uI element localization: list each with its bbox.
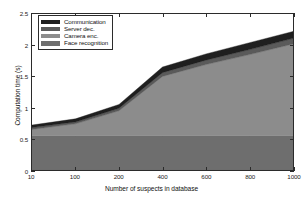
y-tick-label: 1.5 xyxy=(20,73,28,80)
legend-swatch-icon xyxy=(41,27,60,31)
legend-item[interactable]: Face recognition xyxy=(41,40,108,47)
y-tick-mark xyxy=(31,108,35,109)
x-tick-label: 1000 xyxy=(287,173,300,180)
legend-swatch-icon xyxy=(41,41,60,45)
y-axis-title: Computation time (s) xyxy=(14,41,21,151)
x-tick-label: 800 xyxy=(245,173,255,180)
x-tick-label: 400 xyxy=(157,173,167,180)
y-tick-label: 1 xyxy=(25,104,28,111)
x-tick-label: 200 xyxy=(114,173,124,180)
x-tick-mark xyxy=(294,167,295,171)
x-tick-mark xyxy=(119,13,120,17)
x-tick-mark xyxy=(31,13,32,17)
x-tick-mark xyxy=(294,13,295,17)
x-tick-mark xyxy=(206,13,207,17)
legend-label: Face recognition xyxy=(64,40,108,47)
y-tick-label: 2 xyxy=(25,41,28,48)
x-tick-mark xyxy=(163,13,164,17)
y-tick-mark xyxy=(31,139,35,140)
legend-swatch-icon xyxy=(41,34,60,38)
chart-legend: CommunicationServer dec.Camera enc.Face … xyxy=(38,15,113,50)
legend-swatch-icon xyxy=(41,20,60,24)
x-tick-mark xyxy=(250,167,251,171)
x-tick-mark xyxy=(75,167,76,171)
x-tick-label: 100 xyxy=(70,173,80,180)
y-tick-mark xyxy=(31,171,35,172)
y-tick-label: 0.5 xyxy=(20,136,28,143)
x-tick-mark xyxy=(206,167,207,171)
y-tick-mark xyxy=(290,139,294,140)
x-tick-label: 10 xyxy=(28,173,35,180)
x-tick-mark xyxy=(119,167,120,171)
x-tick-mark xyxy=(31,167,32,171)
y-tick-mark xyxy=(31,45,35,46)
y-tick-label: 2.5 xyxy=(20,10,28,17)
x-tick-mark xyxy=(250,13,251,17)
y-tick-mark xyxy=(31,76,35,77)
y-tick-mark xyxy=(290,76,294,77)
x-tick-label: 600 xyxy=(201,173,211,180)
y-tick-mark xyxy=(290,171,294,172)
figure-stacked-area-chart: 00.511.522.5 Computation time (s) 101002… xyxy=(0,0,303,202)
x-tick-mark xyxy=(163,167,164,171)
y-tick-mark xyxy=(290,45,294,46)
area-series-face-recognition xyxy=(32,136,293,170)
y-tick-mark xyxy=(290,108,294,109)
x-axis-title: Number of suspects in database xyxy=(0,185,303,192)
